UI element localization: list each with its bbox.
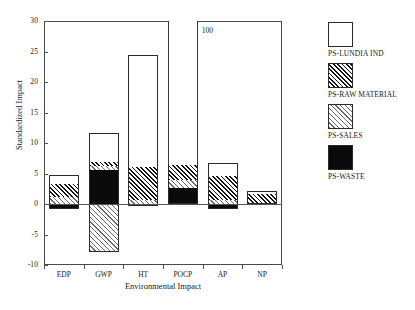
zero-baseline [44, 204, 282, 205]
bar-segment [49, 175, 79, 184]
legend-swatch [328, 22, 353, 47]
bar-ap[interactable] [208, 21, 238, 265]
bar-segment [49, 197, 79, 204]
y-axis-tick-label: 25 [4, 48, 38, 56]
bar-gwp[interactable] [89, 21, 119, 265]
legend-item[interactable]: PS-RAW MATERIAL [328, 63, 414, 99]
x-axis-tick-mark [123, 265, 124, 269]
x-axis-tick-mark [203, 265, 204, 269]
bar-segment [247, 194, 277, 204]
y-axis-tick-mark [44, 235, 48, 236]
bar-segment [208, 176, 238, 200]
x-axis-title: Environmental Impact [44, 281, 282, 291]
legend-label: PS-RAW MATERIAL [328, 90, 414, 99]
y-axis-tick-mark [44, 82, 48, 83]
bar-segment [247, 191, 277, 194]
legend-label: PS-WASTE [328, 172, 414, 181]
bar-segment [168, 188, 198, 204]
x-axis-tick-label-np: NP [232, 271, 292, 279]
y-axis-tick-label: -10 [4, 261, 38, 269]
x-axis-tick-mark [163, 265, 164, 269]
legend: PS-LUNDIA INDPS-RAW MATERIALPS-SALESPS-W… [328, 22, 414, 186]
legend-item[interactable]: PS-SALES [328, 104, 414, 140]
y-axis-tick-mark [44, 174, 48, 175]
legend-item[interactable]: PS-WASTE [328, 145, 414, 181]
truncated-bar-edge [197, 21, 198, 165]
x-axis-tick-mark [84, 265, 85, 269]
y-axis-tick-mark [44, 113, 48, 114]
legend-label: PS-SALES [328, 131, 414, 140]
bar-segment [168, 180, 198, 188]
bar-pocp[interactable] [168, 21, 198, 265]
bar-segment [168, 165, 198, 180]
bar-segment [208, 163, 238, 176]
bar-segment [89, 162, 119, 166]
bar-np[interactable] [247, 21, 277, 265]
bar-edp[interactable] [49, 21, 79, 265]
y-axis-tick-label: 5 [4, 170, 38, 178]
truncated-bar-edge [168, 21, 169, 165]
y-axis-tick-label: 20 [4, 78, 38, 86]
y-axis-tick-label: 10 [4, 139, 38, 147]
bar-segment [89, 166, 119, 171]
y-axis-tick-label: -5 [4, 231, 38, 239]
bar-segment [128, 167, 158, 200]
x-axis-tick-mark [282, 265, 283, 269]
y-axis-tick-label: 15 [4, 109, 38, 117]
y-axis-tick-label: 0 [4, 200, 38, 208]
x-axis-tick-mark [44, 265, 45, 269]
bar-segment [168, 21, 198, 165]
legend-swatch [328, 104, 353, 129]
chart-container: Standardized Impact Environmental Impact… [0, 0, 415, 310]
legend-label: PS-LUNDIA IND [328, 49, 414, 58]
bar-segment [89, 133, 119, 162]
y-axis-tick-mark [44, 21, 48, 22]
bar-segment [128, 55, 158, 168]
bar-ht[interactable] [128, 21, 158, 265]
legend-item[interactable]: PS-LUNDIA IND [328, 22, 414, 58]
x-axis-tick-mark [242, 265, 243, 269]
bar-segment [89, 170, 119, 204]
legend-swatch [328, 145, 353, 170]
y-axis-tick-mark [44, 143, 48, 144]
legend-swatch [328, 63, 353, 88]
bar-segment [89, 204, 119, 252]
y-axis-tick-mark [44, 52, 48, 53]
bar-segment [49, 184, 79, 197]
y-axis-tick-label: 30 [4, 17, 38, 25]
